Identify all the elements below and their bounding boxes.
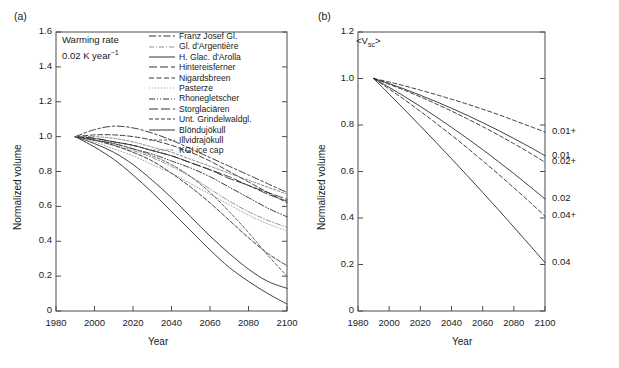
legend-key-dashdot-light [149, 42, 175, 52]
y-tick-label: 0.2 [18, 269, 52, 280]
x-tick-label: 2100 [265, 317, 309, 328]
legend-key-dashed-tiny [149, 145, 175, 155]
curve-end-label: 0.04+ [552, 209, 576, 220]
legend-label: KGI ice cap [179, 145, 223, 155]
legend-item: Rhonegletscher [149, 93, 252, 103]
panel-a-ylabel: Normalized volume [12, 144, 23, 230]
legend-key-dashdotdot [149, 94, 175, 104]
legend-item: H. Glac. d'Arolla [149, 52, 252, 62]
x-tick-label: 2100 [523, 317, 567, 328]
legend-key-dashdot-long [149, 31, 175, 41]
curve-end-label: 0.02 [552, 192, 571, 203]
y-tick-label: 1.2 [320, 25, 354, 36]
curve-end-label: 0.02+ [552, 155, 576, 166]
x-tick-label: 2020 [111, 317, 155, 328]
panel-b-plot [310, 0, 619, 368]
series-line [75, 137, 287, 304]
figure-container: (a) Warming rate 0.02 K year−1 Franz Jos… [0, 0, 619, 368]
legend-label: Hintereisferner [179, 62, 235, 72]
legend-label: Storglaciären [179, 104, 230, 114]
legend-item: Storglaciären [149, 104, 252, 114]
x-tick-label: 2060 [188, 317, 232, 328]
legend-key-dashed-wide [149, 104, 175, 114]
y-tick-label: 1.0 [320, 72, 354, 83]
legend-key-dashed-short [149, 114, 175, 124]
series-line [374, 79, 545, 199]
legend-key-dashed-long [149, 62, 175, 72]
legend-item: KGI ice cap [149, 145, 252, 155]
y-tick-label: 1.6 [18, 25, 52, 36]
legend-key-solid [149, 125, 175, 135]
legend-key-solid [149, 52, 175, 62]
y-tick-label: 0 [18, 304, 52, 315]
warming-rate-value: 0.02 K year−1 [62, 46, 119, 62]
y-tick-label: 0.8 [18, 165, 52, 176]
curve-end-label: 0.01+ [552, 125, 576, 136]
series-line [374, 79, 545, 263]
legend-label: Gl. d'Argentière [179, 41, 238, 51]
legend-label: Nigardsbreen [179, 73, 231, 83]
panel-a-xlabel: Year [148, 336, 168, 347]
x-tick-label: 2080 [227, 317, 271, 328]
legend-item: Unt. Grindelwaldgl. [149, 114, 252, 124]
legend-label: Unt. Grindelwaldgl. [179, 114, 252, 124]
series-line [374, 79, 545, 163]
y-tick-label: 0.8 [320, 118, 354, 129]
series-line [374, 79, 545, 156]
legend-item: Franz Josef Gl. [149, 31, 252, 41]
series-line [374, 79, 545, 217]
y-tick-label: 0.2 [320, 258, 354, 269]
y-tick-label: 1.2 [18, 95, 52, 106]
x-tick-label: 2000 [73, 317, 117, 328]
series-line [75, 137, 287, 277]
legend-label: Pasterze [179, 83, 213, 93]
legend-label: Illvidrajökull [179, 135, 223, 145]
panel-a: (a) Warming rate 0.02 K year−1 Franz Jos… [0, 0, 310, 368]
x-tick-label: 1980 [34, 317, 78, 328]
legend-key-dotted [149, 83, 175, 93]
legend-item: Blöndujökull [149, 125, 252, 135]
y-tick-label: 1.0 [18, 130, 52, 141]
y-tick-label: 0.6 [320, 165, 354, 176]
legend-item: Gl. d'Argentière [149, 41, 252, 51]
y-tick-label: 0.4 [18, 234, 52, 245]
legend-label: H. Glac. d'Arolla [179, 52, 241, 62]
panel-a-annotation: Warming rate 0.02 K year−1 [62, 33, 119, 62]
y-tick-label: 0.6 [18, 199, 52, 210]
legend-key-dashed-fine [149, 135, 175, 145]
curve-end-label: 0.04 [552, 256, 571, 267]
y-tick-label: 0.4 [320, 211, 354, 222]
x-tick-label: 2040 [150, 317, 194, 328]
legend-label: Blöndujökull [179, 125, 225, 135]
legend-label: Rhonegletscher [179, 93, 239, 103]
panel-b-xlabel: Year [452, 336, 472, 347]
y-tick-label: 1.4 [18, 60, 52, 71]
panel-a-legend: Franz Josef Gl.Gl. d'ArgentièreH. Glac. … [149, 31, 252, 156]
series-line [374, 79, 545, 132]
y-tick-label: 0 [320, 304, 354, 315]
legend-label: Franz Josef Gl. [179, 31, 237, 41]
legend-item: Illvidrajökull [149, 135, 252, 145]
panel-b: (b) <Vsc> Normalized volume Year 00.20.4… [310, 0, 619, 368]
panel-b-annotation: <Vsc> [356, 34, 380, 51]
warming-rate-label: Warming rate [62, 33, 119, 46]
legend-key-dashed-med [149, 73, 175, 83]
legend-item: Nigardsbreen [149, 73, 252, 83]
legend-item: Pasterze [149, 83, 252, 93]
legend-item: Hintereisferner [149, 62, 252, 72]
